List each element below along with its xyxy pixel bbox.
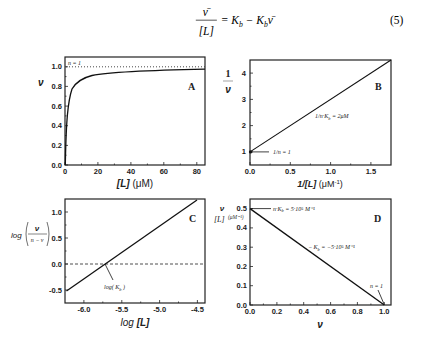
intercept-annotation: 1/n = 1 [273,149,291,155]
svg-text:1.0: 1.0 [52,208,62,217]
svg-text:-0.5: -0.5 [49,286,62,295]
equation-5: ν̄ [L] = Kb − Kbν̄ (5) [0,2,427,46]
svg-text:0.0: 0.0 [52,260,62,269]
slope-annotation-d: − Kb = −5·10⁵ M⁻¹ [308,244,355,252]
svg-text:0.3: 0.3 [237,243,247,252]
svg-text:0.0: 0.0 [237,301,247,310]
panel-label-d: D [374,213,381,224]
svg-text:2: 2 [242,121,246,130]
panel-a: 0.0 0.2 0.4 0.6 0.8 1.0 0 20 40 60 80 n … [38,57,205,189]
panel-label-a: A [188,81,196,92]
nkb-annotation: n·Kb = 5·10⁵ M⁻¹ [273,206,315,214]
svg-text:4: 4 [242,69,247,78]
scatchard-line [250,209,384,305]
svg-text:-4.5: -4.5 [191,305,204,314]
svg-text:0.4: 0.4 [298,307,309,316]
y-axis-label-c: log ν n − ν [11,222,49,246]
equation-rhs: = K [221,14,241,26]
svg-text:0.1: 0.1 [237,281,247,290]
n-equals-1-label: n = 1 [68,60,81,66]
panel-label-c: C [189,213,196,224]
logkb-annotation: log( Kb ) [104,284,125,292]
plot-frame-a [65,57,205,165]
svg-text:0.6: 0.6 [52,102,62,111]
svg-text:0.5: 0.5 [237,204,247,213]
svg-text:-5.5: -5.5 [115,305,128,314]
svg-text:= Kb − Kbν̄: = Kb − Kbν̄ [221,14,276,29]
y-tick-labels-d: 0.0 0.1 0.2 0.3 0.4 0.5 [237,204,248,309]
y-axis-label-b-num: 1 [226,68,231,79]
y-axis-label-b-den: ν [225,84,231,95]
svg-text:40: 40 [127,167,135,176]
svg-text:-5.0: -5.0 [153,305,166,314]
svg-text:0: 0 [63,167,67,176]
x-tick-labels-c: -6.0 -5.5 -5.0 -4.5 [77,305,203,314]
svg-text:0.0: 0.0 [245,167,255,176]
svg-text:ν: ν [220,204,225,213]
x-tick-labels-a: 0 20 40 60 80 [63,167,201,176]
svg-text:0.8: 0.8 [52,82,62,91]
svg-text:0.2: 0.2 [52,141,62,150]
x-axis-label-c: log [L] [121,317,151,328]
svg-text:n − ν: n − ν [31,237,44,243]
logkb-pointer [105,264,113,280]
x-axis-label-b: 1/[L] (μM-1) [297,179,343,189]
n-pointer-d [378,290,384,304]
y-tick-labels-a: 0.0 0.2 0.4 0.6 0.8 1.0 [52,62,63,169]
hill-plot-line [67,200,198,291]
intercept-point [249,150,252,153]
x-axis-label-d: ν [317,319,323,330]
equation-denominator: [L] [199,25,214,37]
panel-label-b: B [375,81,382,92]
svg-text:80: 80 [193,167,201,176]
svg-text:3: 3 [242,95,246,104]
plot-frame-b [250,60,391,165]
equation-numerator: ν̄ [203,6,211,18]
double-reciprocal-line [250,60,391,152]
x-tick-labels-d: 0.0 0.2 0.4 0.6 0.8 1.0 [245,307,390,316]
binding-curve [65,69,205,165]
y-axis-label-d: ν [L] (μM⁻¹) [214,204,244,224]
svg-text:0.6: 0.6 [325,307,335,316]
svg-text:0.0: 0.0 [52,161,62,170]
n-annotation-d: n = 1 [370,283,383,289]
svg-text:60: 60 [160,167,168,176]
svg-text:(μM⁻¹): (μM⁻¹) [228,214,244,221]
svg-text:0.4: 0.4 [52,121,63,130]
panel-c: -0.5 0.0 0.5 1.0 -6.0 -5.5 -5.0 -4.5 log… [11,199,205,328]
y-tick-labels-c: -0.5 0.0 0.5 1.0 [49,208,62,295]
svg-text:1.0: 1.0 [379,307,389,316]
y-axis-label-a: ν [38,77,44,88]
x-tick-labels-b: 0.0 0.5 1.0 1.5 [245,167,376,176]
svg-text:-6.0: -6.0 [77,305,90,314]
svg-text:0.8: 0.8 [352,307,362,316]
svg-text:0.4: 0.4 [237,223,248,232]
svg-text:[L]: [L] [214,215,225,224]
y-tick-labels-b: 1 2 3 4 [242,69,247,157]
svg-text:log: log [11,231,22,240]
svg-text:0.2: 0.2 [272,307,282,316]
plot-frame-d [250,199,391,305]
equation-number: (5) [390,14,404,27]
plot-frame-c [65,199,205,303]
svg-text:1.0: 1.0 [52,62,62,71]
svg-text:20: 20 [94,167,102,176]
svg-text:0.5: 0.5 [52,234,62,243]
svg-text:0.0: 0.0 [245,307,255,316]
slope-annotation: 1/n·Kb = 2μM [315,113,349,121]
panel-d: 0.0 0.1 0.2 0.3 0.4 0.5 0.0 0.2 0.4 0.6 … [214,199,391,330]
chart-panel-a: 0.0 0.2 0.4 0.6 0.8 1.0 0 20 40 60 80 n … [0,0,427,341]
panel-b: 1 2 3 4 0.0 0.5 1.0 1.5 1/n = 1 1/n·Kb =… [223,60,391,189]
svg-text:0.2: 0.2 [237,262,247,271]
svg-text:1: 1 [242,147,246,156]
x-axis-label-a: [L] (μM) [116,178,153,189]
svg-text:1.0: 1.0 [325,167,335,176]
svg-text:1.5: 1.5 [366,167,376,176]
svg-text:ν: ν [35,224,40,233]
svg-text:0.5: 0.5 [285,167,295,176]
